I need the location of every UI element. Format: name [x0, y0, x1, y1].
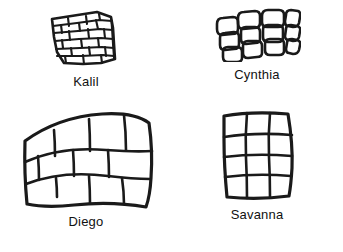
- kalil-grid-drawing: [41, 6, 131, 68]
- panel-kalil: Kalil: [0, 6, 172, 88]
- figure-canvas: Kalil Cynthia: [0, 0, 343, 252]
- panel-label-diego: Diego: [69, 215, 104, 228]
- panel-savanna: Savanna: [171, 106, 343, 221]
- diego-grid-drawing: [16, 106, 156, 211]
- panel-diego: Diego: [0, 106, 172, 228]
- panel-label-savanna: Savanna: [231, 208, 284, 221]
- panel-label-cynthia: Cynthia: [234, 68, 279, 81]
- cynthia-grid-drawing: [213, 6, 301, 62]
- savanna-grid-drawing: [214, 106, 300, 202]
- panel-cynthia: Cynthia: [171, 6, 343, 81]
- panel-label-kalil: Kalil: [73, 75, 99, 88]
